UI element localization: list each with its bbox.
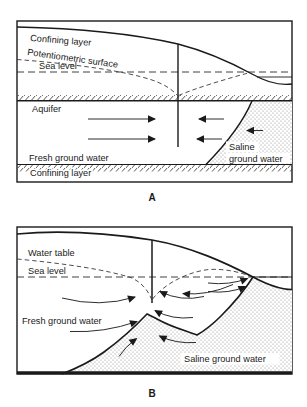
aquifer-top-hatch bbox=[17, 95, 292, 101]
confining-layer-bottom-label: Confining layer bbox=[30, 168, 91, 178]
sea-level-label-a: Sea level bbox=[39, 61, 77, 71]
saline-label-line2: ground water bbox=[229, 154, 283, 164]
groundwater-figure: Confining layer Potentiometric surface S… bbox=[0, 0, 307, 407]
panel-b-tag: B bbox=[148, 388, 155, 399]
panel-a-diagram: Confining layer Potentiometric surface S… bbox=[0, 0, 307, 207]
panel-b-diagram: Water table Sea level Fresh ground water… bbox=[0, 207, 307, 407]
sea-level-label-b: Sea level bbox=[28, 266, 66, 276]
aquifer-label: Aquifer bbox=[32, 104, 61, 114]
saline-ground-water-label-b: Saline ground water bbox=[184, 354, 266, 364]
panel-a-tag: A bbox=[148, 192, 155, 203]
fresh-ground-water-label-b: Fresh ground water bbox=[22, 316, 102, 326]
water-table-label: Water table bbox=[28, 248, 75, 258]
fresh-ground-water-label-a: Fresh ground water bbox=[29, 153, 109, 163]
saline-label-line1: Saline bbox=[229, 142, 255, 152]
